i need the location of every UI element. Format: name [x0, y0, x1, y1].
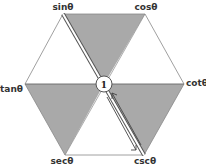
label-sin: sinθ	[52, 2, 73, 12]
label-sec: secθ	[51, 156, 74, 164]
label-cot: cotθ	[186, 78, 206, 88]
label-tan: tanθ	[0, 84, 23, 94]
shaded-triangle-top	[63, 14, 145, 84]
label-csc: cscθ	[134, 156, 156, 164]
trig-hexagon-diagram: 1 sinθ cosθ cotθ cscθ secθ tanθ	[0, 0, 206, 164]
shaded-triangle-bottom-left	[25, 84, 104, 155]
label-cos: cosθ	[134, 2, 157, 12]
center-label: 1	[101, 80, 107, 90]
